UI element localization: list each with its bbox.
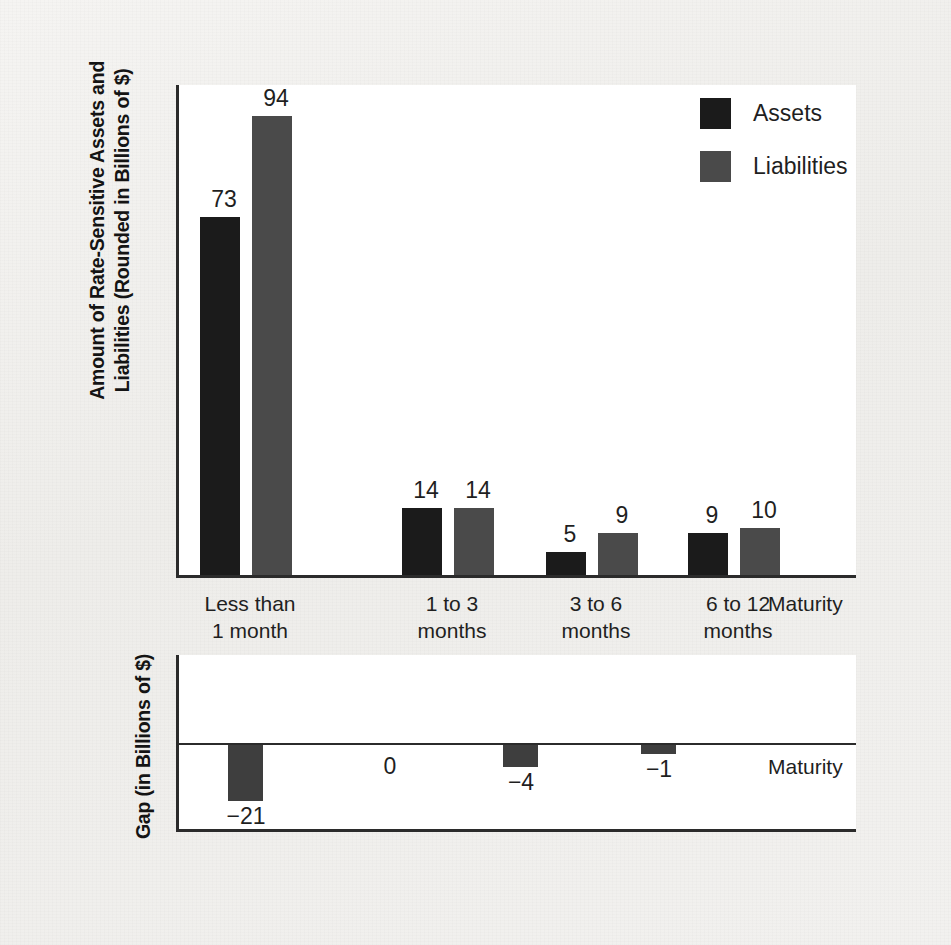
gap-chart-x-axis-title: Maturity: [768, 755, 843, 779]
gap-chart-y-axis-label: Gap (in Billions of $): [132, 617, 155, 877]
gap-value-6-to-12-months: −1: [614, 756, 704, 783]
x-tick-3-to-6-months-line1: 3 to 6: [526, 590, 666, 617]
top-chart-y-axis-label-line1: Amount of Rate-Sensitive Assets and: [85, 20, 110, 440]
value-label-liabilities-3-to-6-months: 9: [578, 502, 666, 529]
bar-assets-1-to-3-months: [402, 508, 442, 577]
top-chart-x-axis-title: Maturity: [768, 592, 843, 616]
top-chart-y-axis-label-line2: Liabilities (Rounded in Billions of $): [110, 20, 135, 440]
top-chart-y-axis-label: Amount of Rate-Sensitive Assets and Liab…: [85, 20, 136, 440]
x-tick-less-than-1-month: Less than 1 month: [180, 590, 320, 645]
x-tick-3-to-6-months-line2: months: [526, 617, 666, 644]
legend-label-liabilities: Liabilities: [753, 153, 848, 180]
legend-swatch-assets-icon: [700, 98, 731, 129]
gap-bar-6-to-12-months: [641, 745, 676, 754]
legend: Assets Liabilities: [700, 98, 848, 204]
gap-bar-less-than-1-month: [228, 745, 263, 801]
x-tick-1-to-3-months-line1: 1 to 3: [382, 590, 522, 617]
top-chart-y-axis: [176, 85, 179, 577]
gap-bar-3-to-6-months: [503, 745, 538, 767]
bar-liabilities-6-to-12-months: [740, 528, 780, 577]
gap-value-3-to-6-months: −4: [476, 769, 566, 796]
legend-label-assets: Assets: [753, 100, 822, 127]
x-tick-1-to-3-months: 1 to 3 months: [382, 590, 522, 645]
bar-assets-6-to-12-months: [688, 533, 728, 577]
value-label-liabilities-1-to-3-months: 14: [434, 477, 522, 504]
bar-assets-3-to-6-months: [546, 552, 586, 577]
legend-item-assets: Assets: [700, 98, 848, 129]
bar-liabilities-1-to-3-months: [454, 508, 494, 577]
bar-assets-less-than-1-month: [200, 217, 240, 577]
x-tick-less-than-1-month-line1: Less than: [180, 590, 320, 617]
x-tick-1-to-3-months-line2: months: [382, 617, 522, 644]
x-tick-6-to-12-months-line2: months: [668, 617, 808, 644]
gap-value-1-to-3-months: 0: [345, 753, 435, 780]
value-label-liabilities-less-than-1-month: 94: [232, 85, 320, 112]
x-tick-less-than-1-month-line2: 1 month: [180, 617, 320, 644]
gap-value-less-than-1-month: −21: [201, 803, 291, 830]
value-label-liabilities-6-to-12-months: 10: [720, 497, 808, 524]
legend-item-liabilities: Liabilities: [700, 151, 848, 182]
figure-root: Amount of Rate-Sensitive Assets and Liab…: [0, 0, 951, 945]
x-tick-3-to-6-months: 3 to 6 months: [526, 590, 666, 645]
top-chart-x-axis: [176, 575, 856, 578]
legend-swatch-liabilities-icon: [700, 151, 731, 182]
value-label-assets-less-than-1-month: 73: [180, 186, 268, 213]
